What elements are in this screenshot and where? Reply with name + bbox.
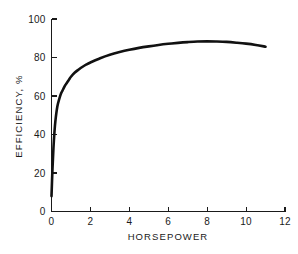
x-tick-label: 6: [165, 216, 171, 227]
x-tick-label: 2: [88, 216, 94, 227]
y-tick-label: 0: [40, 206, 46, 217]
x-tick-label: 10: [240, 216, 252, 227]
x-tick-label: 0: [49, 216, 55, 227]
y-tick-label: 100: [28, 14, 46, 25]
x-tick-label: 12: [279, 216, 291, 227]
x-tick-label: 8: [204, 216, 210, 227]
chart-canvas: 020406080100 024681012 HORSEPOWER EFFICI…: [0, 0, 298, 254]
y-tick-label: 60: [34, 91, 46, 102]
x-axis-title: HORSEPOWER: [128, 231, 209, 242]
y-tick-label: 80: [34, 52, 46, 63]
x-tick-label: 4: [126, 216, 132, 227]
efficiency-horsepower-chart: 020406080100 024681012 HORSEPOWER EFFICI…: [0, 0, 298, 254]
y-axis-title: EFFICIENCY, %: [13, 74, 24, 157]
y-tick-label: 40: [34, 129, 46, 140]
y-tick-label: 20: [34, 168, 46, 179]
